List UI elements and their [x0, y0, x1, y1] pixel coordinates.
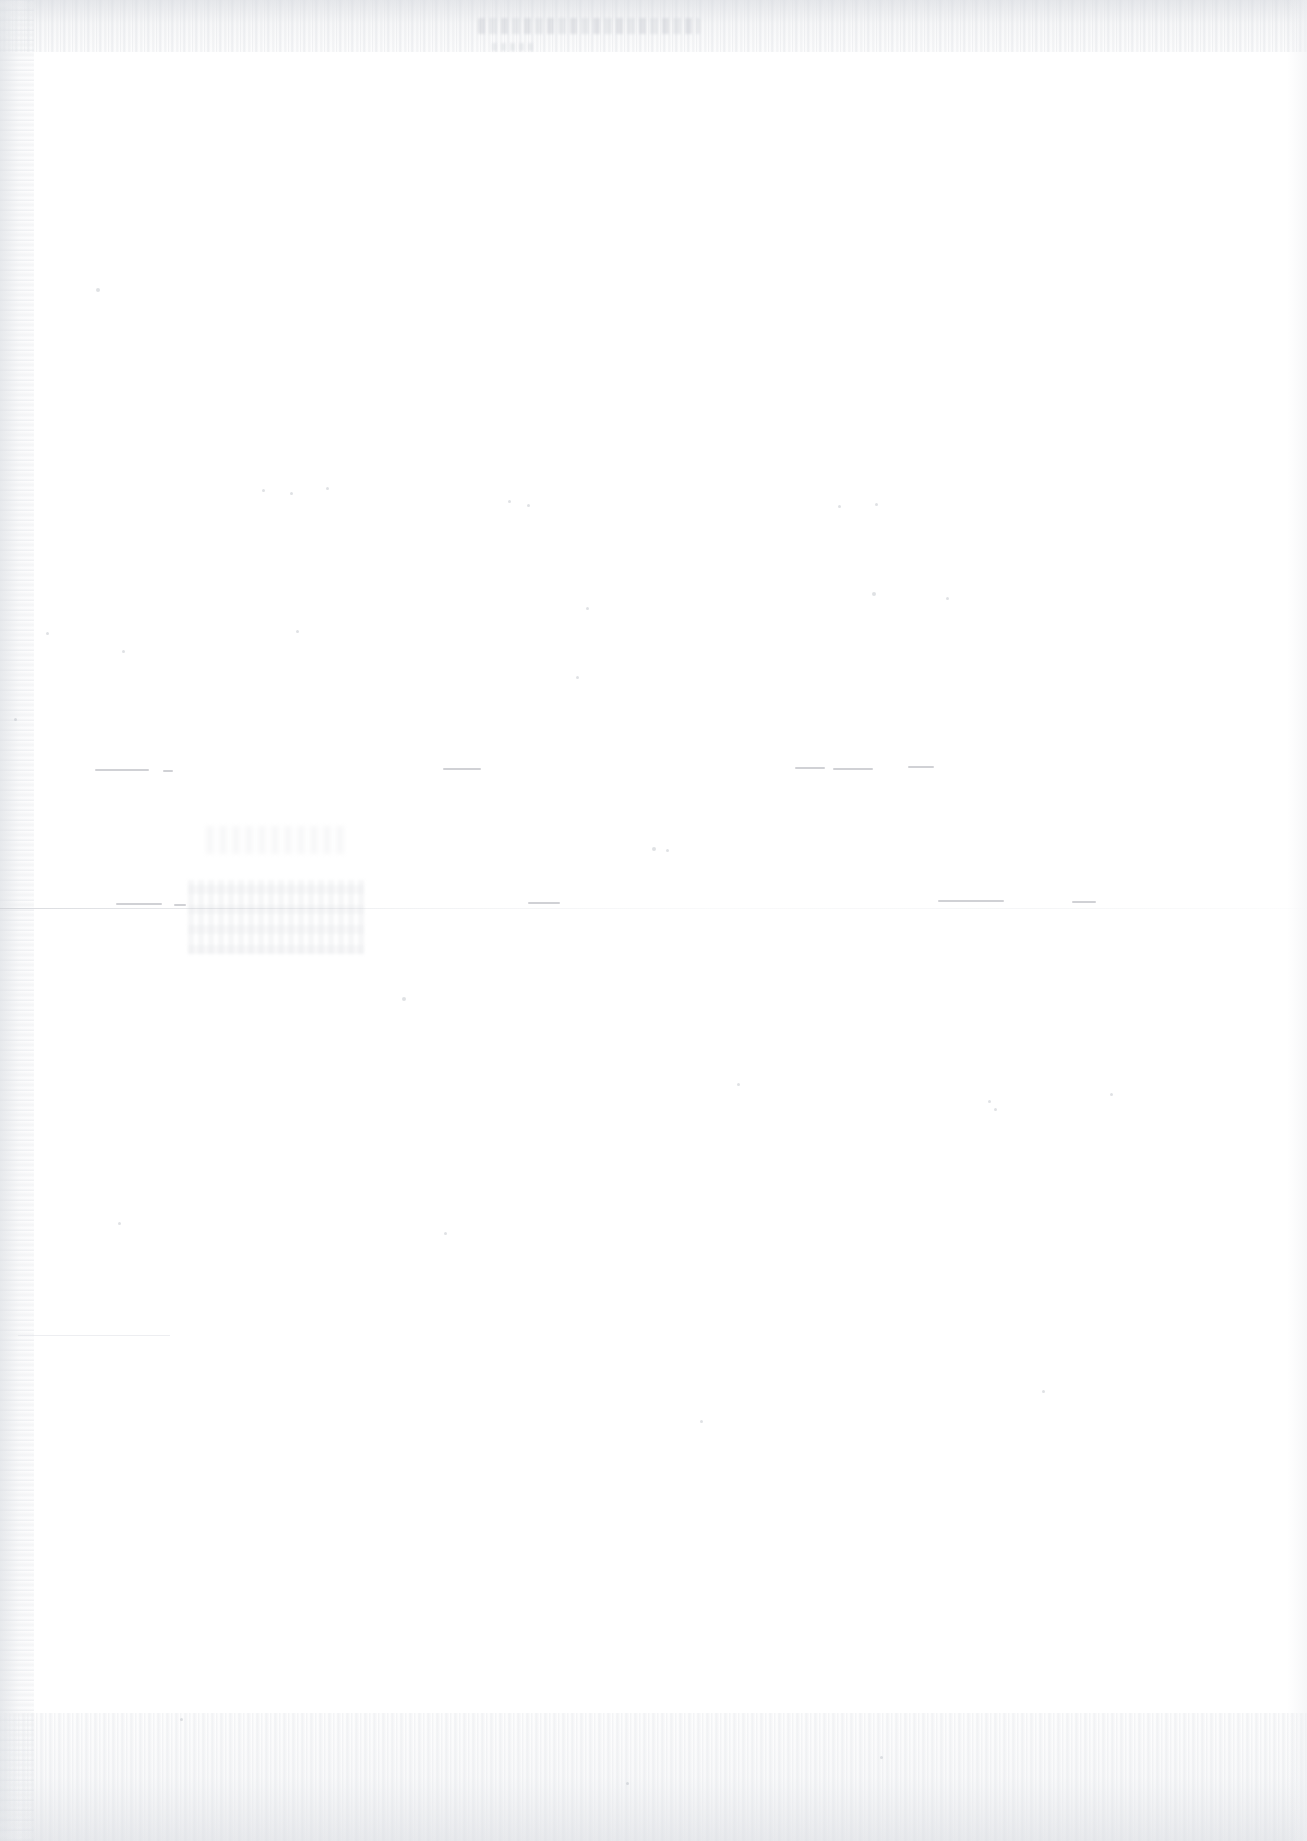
speck-27	[1042, 1390, 1045, 1393]
speck-26	[700, 1420, 703, 1423]
scan-noise-bottom-edge	[0, 1713, 1307, 1841]
dash-fragment-5	[833, 768, 873, 770]
speck-9	[508, 500, 511, 503]
speck-20	[737, 1083, 740, 1086]
speck-6	[290, 492, 293, 495]
faded-header-text	[478, 18, 700, 34]
speck-22	[994, 1108, 997, 1111]
dash-fragment-10	[938, 900, 1004, 902]
speck-8	[296, 630, 299, 633]
scan-noise-left-edge	[0, 0, 34, 1841]
speck-2	[122, 650, 125, 653]
speck-7	[326, 487, 329, 490]
faint-rule-bottom-left	[18, 1335, 170, 1336]
illegible-text-smudge-upper	[206, 826, 346, 854]
dash-fragment-6	[908, 766, 934, 768]
speck-16	[872, 592, 876, 596]
speck-30	[626, 1782, 629, 1785]
speck-25	[444, 1232, 447, 1235]
dash-fragment-1	[95, 769, 149, 771]
speck-10	[527, 504, 530, 507]
speck-24	[118, 1222, 121, 1225]
dash-fragment-8	[174, 904, 186, 906]
speck-17	[875, 503, 878, 506]
speck-5	[262, 489, 265, 492]
speck-12	[586, 607, 589, 610]
speck-14	[666, 849, 669, 852]
speck-15	[838, 505, 841, 508]
speck-1	[96, 288, 100, 292]
dash-fragment-9	[528, 902, 560, 904]
speck-28	[180, 1718, 183, 1721]
dash-fragment-2	[163, 770, 173, 772]
speck-29	[880, 1756, 883, 1759]
speck-3	[46, 632, 49, 635]
faded-header-subtext	[492, 43, 534, 51]
speck-21	[988, 1100, 991, 1103]
speck-19	[402, 997, 406, 1001]
dash-fragment-11	[1072, 901, 1096, 903]
speck-4	[14, 718, 17, 721]
speck-18	[946, 597, 949, 600]
dash-fragment-4	[795, 767, 825, 769]
dash-fragment-3	[443, 768, 481, 770]
dash-fragment-7	[116, 903, 162, 905]
scanned-document-page: No legible text is rendered in the pixel…	[0, 0, 1307, 1841]
speck-23	[1110, 1093, 1113, 1096]
scan-noise-right-edge	[1287, 0, 1307, 1841]
illegible-text-smudge	[188, 880, 364, 954]
speck-11	[576, 676, 579, 679]
speck-13	[652, 847, 656, 851]
